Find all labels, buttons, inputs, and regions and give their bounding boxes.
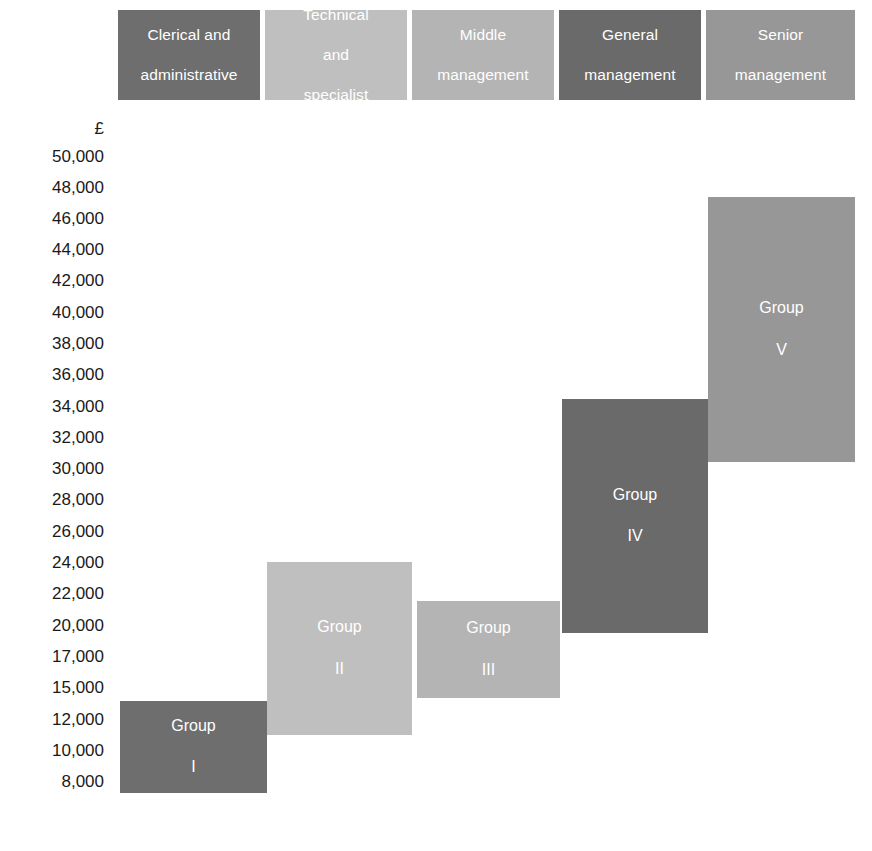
bar-group-2[interactable]: Group II [267, 562, 412, 735]
bar-label-line2: I [120, 757, 267, 778]
bar-group-4[interactable]: Group IV [562, 399, 708, 633]
bar-label-line1: Group [120, 716, 267, 737]
salary-range-chart: Clerical and administrative Technical an… [0, 0, 872, 851]
bar-label-line1: Group [562, 485, 708, 506]
plot-area: Group I Group II Group III Group IV [0, 0, 872, 851]
bar-label-line1: Group [708, 298, 855, 319]
bar-label-line2: II [267, 659, 412, 680]
bar-group-5[interactable]: Group V [708, 197, 855, 462]
bar-label-line2: III [417, 660, 560, 681]
bar-group-3[interactable]: Group III [417, 601, 560, 698]
bar-group-1[interactable]: Group I [120, 701, 267, 793]
bar-label-line2: V [708, 340, 855, 361]
bar-label-line2: IV [562, 526, 708, 547]
bar-label-line1: Group [267, 617, 412, 638]
bar-label-line1: Group [417, 618, 560, 639]
